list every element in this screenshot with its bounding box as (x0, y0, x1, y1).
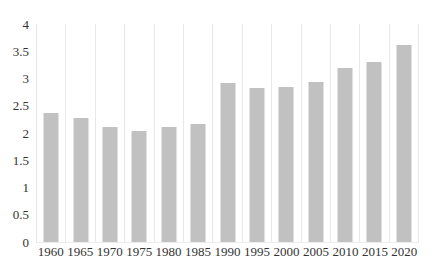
x-tick-label: 1960 (36, 245, 65, 259)
category-cell (65, 24, 94, 242)
bar-2020 (396, 45, 411, 242)
category-cell (330, 24, 359, 242)
category-cell (359, 24, 388, 242)
y-tick-label: 2 (0, 127, 29, 140)
x-tick-label: 1985 (183, 245, 212, 259)
category-cell (36, 24, 65, 242)
category-cell (271, 24, 300, 242)
bar-1980 (161, 127, 176, 242)
y-tick-label: 1.5 (0, 154, 29, 167)
category-cell (242, 24, 271, 242)
y-tick-label: 0 (0, 236, 29, 249)
x-tick-label: 1990 (213, 245, 242, 259)
category-cell (154, 24, 183, 242)
bar-1995 (249, 88, 264, 242)
y-tick-label: 4 (0, 18, 29, 31)
x-tick-label: 2020 (390, 245, 419, 259)
plot-area (36, 24, 419, 243)
y-tick-label: 3 (0, 72, 29, 85)
y-tick-label: 2.5 (0, 99, 29, 112)
x-tick-label: 1980 (154, 245, 183, 259)
y-axis: 00.511.522.533.54 (0, 24, 29, 242)
bar-1960 (44, 113, 59, 242)
bar-1965 (73, 118, 88, 242)
x-axis: 1960196519701975198019851990199520002005… (36, 245, 419, 259)
bar-chart: 00.511.522.533.54 1960196519701975198019… (0, 0, 432, 274)
y-tick-label: 0.5 (0, 208, 29, 221)
y-tick-label: 1 (0, 181, 29, 194)
y-tick-label: 3.5 (0, 45, 29, 58)
category-cell (212, 24, 241, 242)
x-tick-label: 2010 (331, 245, 360, 259)
category-cell (124, 24, 153, 242)
x-tick-label: 2015 (360, 245, 389, 259)
bar-1985 (191, 124, 206, 242)
x-tick-label: 2005 (301, 245, 330, 259)
bar-2005 (308, 82, 323, 242)
bar-2015 (367, 62, 382, 242)
x-tick-label: 2000 (272, 245, 301, 259)
x-tick-label: 1995 (242, 245, 271, 259)
bar-1975 (132, 131, 147, 242)
x-tick-label: 1965 (65, 245, 94, 259)
category-cell (301, 24, 330, 242)
x-tick-label: 1975 (124, 245, 153, 259)
bar-2010 (338, 68, 353, 242)
category-cell (389, 24, 419, 242)
bar-1970 (102, 127, 117, 242)
category-cell (95, 24, 124, 242)
bar-2000 (279, 87, 294, 242)
category-cell (183, 24, 212, 242)
bar-1990 (220, 83, 235, 242)
x-tick-label: 1970 (95, 245, 124, 259)
